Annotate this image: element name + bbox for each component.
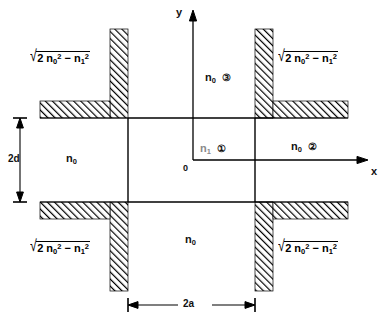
radical-sign: √ <box>30 46 37 65</box>
radical-body: 2 n02 − n12 <box>36 51 90 66</box>
radical-prefix: 2 n <box>285 242 301 254</box>
radical-sup-b: 2 <box>85 52 89 61</box>
figure-canvas: y x 0 2d 2a n1 ① n0 ② n0 ③ n0 n0 √2 n02 … <box>0 0 386 330</box>
region-right-label: n0 ② <box>291 140 317 154</box>
radical-sup-a: 2 <box>305 242 309 251</box>
region-core-index: n <box>200 142 207 154</box>
radical-minus: − n <box>312 52 328 64</box>
dim-2a-arrow-left <box>128 302 138 309</box>
hatch-lower-left-band <box>40 202 110 219</box>
region-right-index: n <box>291 140 298 152</box>
dimension-2a-label: 2a <box>183 298 194 309</box>
hatch-right-column-upper <box>255 29 273 118</box>
radical-body: 2 n02 − n12 <box>284 51 338 66</box>
region-bottom-index: n <box>185 233 192 245</box>
x-axis-label: x <box>371 165 377 177</box>
region-core-marker: ① <box>217 144 226 154</box>
hatch-right-column-lower <box>255 202 273 291</box>
dim-2d-arrow-down <box>17 192 24 202</box>
radical-sup-a: 2 <box>305 52 309 61</box>
region-top-marker: ③ <box>222 73 231 83</box>
region-bottom-subscript: 0 <box>192 238 196 247</box>
radical-body: 2 n02 − n12 <box>284 241 338 256</box>
hatch-lower-right-band <box>273 202 348 219</box>
dimension-2d-label: 2d <box>8 153 20 164</box>
radical-sign: √ <box>30 236 37 255</box>
axes-group <box>189 10 368 164</box>
radical-prefix: 2 n <box>37 52 53 64</box>
radical-sign: √ <box>278 46 285 65</box>
corner-formula-top-right: √2 n02 − n12 <box>278 50 338 66</box>
radical-minus: − n <box>312 242 328 254</box>
radical-sup-b: 2 <box>333 242 337 251</box>
region-right-subscript: 0 <box>298 145 302 154</box>
region-core-subscript: 1 <box>207 147 211 156</box>
radical-sup-a: 2 <box>57 242 61 251</box>
dim-2d-arrow-up <box>17 118 24 128</box>
region-top-label: n0 ③ <box>205 71 231 85</box>
hatch-left-column-lower <box>110 202 128 291</box>
origin-label: 0 <box>183 163 188 173</box>
region-top-index: n <box>205 71 212 83</box>
radical-body: 2 n02 − n12 <box>36 241 90 256</box>
region-left-subscript: 0 <box>73 157 77 166</box>
corner-formula-bottom-left: √2 n02 − n12 <box>30 240 90 256</box>
region-right-marker: ② <box>308 142 317 152</box>
radical-sup-b: 2 <box>85 242 89 251</box>
region-core-label: n1 ① <box>200 142 226 156</box>
region-top-subscript: 0 <box>212 76 216 85</box>
radical-sup-a: 2 <box>57 52 61 61</box>
corner-formula-bottom-right: √2 n02 − n12 <box>278 240 338 256</box>
radical-sign: √ <box>278 236 285 255</box>
hatch-upper-right-band <box>273 101 348 118</box>
radical-prefix: 2 n <box>37 242 53 254</box>
y-axis-label: y <box>176 6 182 18</box>
hatch-upper-left-band <box>40 101 110 118</box>
region-left-index: n <box>66 152 73 164</box>
y-axis-arrowhead <box>189 10 196 21</box>
radical-minus: − n <box>64 242 80 254</box>
hatch-left-column-upper <box>110 29 128 118</box>
dim-2a-arrow-right <box>245 302 255 309</box>
corner-formula-top-left: √2 n02 − n12 <box>30 50 90 66</box>
radical-minus: − n <box>64 52 80 64</box>
x-axis-arrowhead <box>357 156 368 163</box>
region-left-label: n0 <box>66 152 77 166</box>
radical-prefix: 2 n <box>285 52 301 64</box>
region-bottom-label: n0 <box>185 233 196 247</box>
radical-sup-b: 2 <box>333 52 337 61</box>
